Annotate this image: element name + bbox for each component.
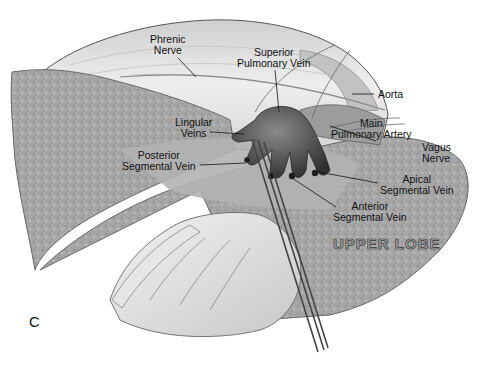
label-phrenic-nerve: Phrenic Nerve — [150, 34, 186, 56]
label-anterior-segmental-vein: Anterior Segmental Vein — [333, 201, 407, 223]
label-posterior-segmental-vein: Posterior Segmental Vein — [122, 150, 196, 172]
label-aorta: Aorta — [378, 89, 403, 100]
label-vagus-nerve: Vagus Nerve — [422, 142, 451, 164]
label-lingular-veins: Lingular Veins — [175, 117, 212, 139]
upper-lobe-label: UPPER LOBE — [333, 235, 441, 252]
label-apical-segmental-vein: Apical Segmental Vein — [380, 174, 454, 196]
panel-letter: C — [29, 313, 40, 330]
label-superior-pulmonary-vein: Superior Pulmonary Vein — [237, 47, 311, 69]
label-main-pulmonary-artery: Main Pulmonary Artery — [331, 118, 412, 140]
anatomical-illustration: Phrenic Nerve Superior Pulmonary Vein Ao… — [0, 0, 490, 370]
